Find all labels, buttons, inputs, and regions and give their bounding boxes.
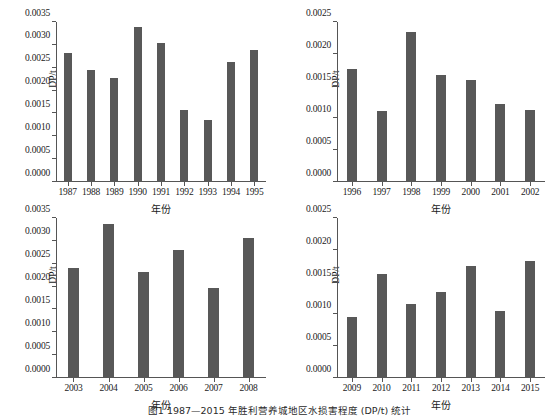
y-axis-tick-label: 0.0000	[306, 168, 331, 178]
x-axis-tick	[352, 378, 353, 382]
x-axis-tick	[144, 378, 145, 382]
x-axis-tick-label: 2009	[343, 383, 361, 393]
y-axis-tick-label: 0.0020	[25, 272, 50, 282]
y-axis-tick-label: 0.0020	[25, 76, 50, 86]
x-axis-tick-label: 1987	[59, 187, 77, 197]
y-axis-tick-label: 0.0025	[25, 53, 50, 63]
y-axis-tick-label: 0.0025	[25, 249, 50, 259]
x-axis-tick	[441, 378, 442, 382]
x-axis-tick	[214, 378, 215, 382]
x-axis-tick-label: 1991	[152, 187, 170, 197]
bar	[227, 62, 235, 182]
bar	[436, 292, 446, 378]
y-axis-tick-label: 0.0025	[306, 8, 331, 18]
x-axis-tick-label: 1999	[432, 187, 450, 197]
y-axis-tick-label: 0.0010	[25, 122, 50, 132]
bar	[525, 261, 535, 378]
x-axis-tick-label: 2015	[521, 383, 539, 393]
x-axis-tick-label: 1988	[82, 187, 100, 197]
x-axis-tick	[382, 182, 383, 186]
bar	[103, 224, 115, 379]
x-axis-tick	[471, 378, 472, 382]
chart-panel-top-left: DP/t 0.00000.00050.00100.00150.00200.002…	[0, 0, 279, 204]
y-axis-tick-label: 0.0020	[306, 40, 331, 50]
bar	[347, 69, 357, 182]
y-axis-tick-label: 0.0035	[25, 204, 50, 214]
bar	[436, 75, 446, 182]
bar	[347, 317, 357, 378]
x-axis-tick	[231, 182, 232, 186]
x-axis-tick	[91, 182, 92, 186]
y-axis-tick-label: 0.0000	[25, 364, 50, 374]
y-axis-tick-label: 0.0000	[25, 168, 50, 178]
x-axis-tick-label: 1997	[372, 187, 390, 197]
y-axis-tick-label: 0.0030	[25, 30, 50, 40]
x-axis-tick-label: 2008	[239, 383, 257, 393]
bar	[377, 111, 387, 182]
bar	[64, 53, 72, 182]
bar-series-bottom-right	[337, 218, 545, 378]
x-axis-tick	[352, 182, 353, 186]
x-axis-tick-label: 1996	[343, 187, 361, 197]
bar-series-top-left	[56, 22, 266, 182]
bar	[495, 311, 505, 378]
bar	[110, 78, 118, 182]
x-axis-tick-label: 1989	[105, 187, 123, 197]
x-axis-tick-label: 2011	[402, 383, 420, 393]
bar	[157, 43, 165, 182]
x-axis-tick	[109, 378, 110, 382]
y-axis-tick-label: 0.0035	[25, 8, 50, 18]
x-axis-tick	[179, 378, 180, 382]
y-axis-tick-label: 0.0015	[306, 268, 331, 278]
y-axis-tick-label: 0.0010	[306, 104, 331, 114]
y-axis-tick-label: 0.0000	[306, 364, 331, 374]
bar	[134, 27, 142, 182]
bar	[406, 32, 416, 182]
x-axis-tick	[114, 182, 115, 186]
x-axis-tick	[138, 182, 139, 186]
x-axis-tick-label: 2005	[134, 383, 152, 393]
x-axis-tick	[254, 182, 255, 186]
bar	[525, 110, 535, 182]
y-axis-tick-label: 0.0010	[306, 300, 331, 310]
bar	[68, 268, 80, 378]
plot-area-top-left: DP/t 0.00000.00050.00100.00150.00200.002…	[56, 22, 266, 182]
bar	[204, 120, 212, 182]
chart-panel-bottom-left: DP/t 0.00000.00050.00100.00150.00200.002…	[0, 204, 279, 400]
plot-area-bottom-left: DP/t 0.00000.00050.00100.00150.00200.002…	[56, 218, 266, 378]
bar-series-top-right	[337, 22, 545, 182]
x-axis-tick	[500, 378, 501, 382]
x-axis-tick-label: 1992	[175, 187, 193, 197]
bar-series-bottom-left	[56, 218, 266, 378]
x-axis-tick	[73, 378, 74, 382]
x-axis-tick	[184, 182, 185, 186]
chart-panel-bottom-right: DP/t 0.00000.00050.00100.00150.00200.002…	[279, 204, 559, 400]
x-axis-tick	[68, 182, 69, 186]
x-axis-tick	[530, 182, 531, 186]
bar	[466, 80, 476, 182]
y-axis-tick-label: 0.0015	[306, 72, 331, 82]
x-axis-tick-label: 2002	[521, 187, 539, 197]
x-axis-tick-label: 2006	[169, 383, 187, 393]
y-axis-tick-label: 0.0015	[25, 99, 50, 109]
x-axis-tick-label: 2013	[462, 383, 480, 393]
bar	[138, 272, 150, 378]
y-axis-tick-label: 0.0005	[306, 136, 331, 146]
bar	[406, 304, 416, 378]
bar	[466, 266, 476, 378]
y-axis-tick-label: 0.0010	[25, 318, 50, 328]
bar	[173, 250, 185, 378]
bar	[377, 274, 387, 378]
plot-area-top-right: DP/t 0.00000.00050.00100.00150.00200.002…	[337, 22, 545, 182]
x-axis-tick-label: 2003	[64, 383, 82, 393]
x-axis-tick	[382, 378, 383, 382]
x-axis-tick	[161, 182, 162, 186]
bar	[250, 50, 258, 182]
chart-panel-top-right: DP/t 0.00000.00050.00100.00150.00200.002…	[279, 0, 559, 204]
x-axis-tick-label: 2007	[204, 383, 222, 393]
x-axis-tick	[530, 378, 531, 382]
x-axis-tick-label: 2001	[491, 187, 509, 197]
bar	[180, 110, 188, 182]
x-axis-tick-label: 2000	[462, 187, 480, 197]
x-axis-tick	[208, 182, 209, 186]
